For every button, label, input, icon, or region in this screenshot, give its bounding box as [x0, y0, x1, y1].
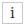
info-button[interactable]: i — [2, 2, 23, 24]
info-icon: i — [10, 6, 15, 21]
